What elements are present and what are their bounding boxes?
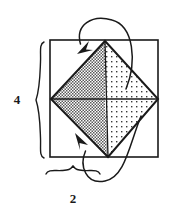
width-brace (46, 166, 100, 174)
geometry-figure: 4 2 (0, 0, 172, 213)
height-brace (36, 42, 44, 158)
figure-canvas: 4 2 (0, 0, 172, 213)
width-label: 2 (70, 191, 77, 206)
height-label: 4 (14, 92, 21, 107)
